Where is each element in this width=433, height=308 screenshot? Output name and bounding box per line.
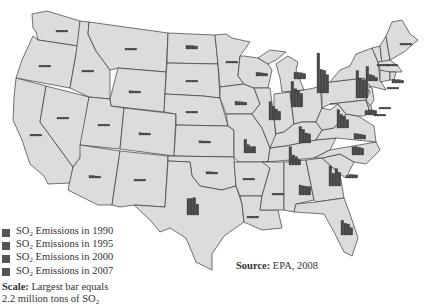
bar-2000	[406, 43, 409, 45]
bar-2000	[278, 193, 281, 195]
bar-1995	[209, 172, 212, 174]
bar-2007	[278, 111, 281, 120]
bar-1990	[329, 166, 332, 186]
bar-1990	[386, 64, 389, 66]
bar-2007	[196, 204, 199, 215]
bar-2007	[253, 147, 256, 153]
bar-1990	[187, 199, 190, 215]
bar-2000	[241, 102, 244, 105]
bar-1995	[357, 134, 360, 139]
scale-text-1: Largest bar equals	[29, 281, 108, 292]
bar-cluster-wa	[56, 30, 68, 32]
bar-1995	[349, 174, 352, 178]
bar-2007	[409, 43, 412, 45]
bar-2000	[63, 117, 66, 119]
bar-2000	[250, 147, 253, 153]
bar-cluster-ma	[392, 79, 404, 83]
bar-1990	[289, 147, 292, 165]
bar-2007	[298, 160, 301, 165]
bar-2007	[65, 30, 68, 32]
bar-cluster-co	[139, 133, 151, 135]
bar-2000	[192, 46, 195, 49]
bar-2000	[352, 175, 355, 178]
bar-cluster-mi	[294, 72, 306, 79]
bar-2000	[193, 198, 196, 215]
bar-2007	[244, 102, 247, 105]
bar-2007	[91, 70, 94, 72]
bar-1995	[355, 147, 358, 155]
bar-1990	[346, 175, 349, 178]
bar-1990	[129, 91, 132, 93]
bar-2000	[249, 178, 252, 180]
source-label: Source:	[236, 260, 270, 271]
bar-1990	[206, 172, 209, 174]
bar-2000	[145, 133, 148, 135]
bar-cluster-me	[400, 43, 412, 45]
bar-2000	[192, 111, 195, 113]
bar-cluster-mt	[125, 48, 137, 50]
bar-2000	[392, 64, 395, 66]
bar-1995	[292, 155, 295, 165]
bar-2000	[380, 114, 383, 116]
bar-1990	[139, 133, 142, 135]
bar-2007	[195, 80, 198, 82]
bar-2000	[212, 172, 215, 174]
bar-2000	[385, 107, 388, 109]
bar-1990	[291, 82, 294, 107]
legend-swatch	[2, 242, 10, 250]
bar-2007	[143, 179, 146, 181]
bar-2007	[195, 46, 198, 49]
bar-1990	[56, 30, 59, 32]
bar-2000	[295, 157, 298, 165]
bar-2007	[107, 124, 110, 126]
bar-2000	[398, 80, 401, 83]
bar-2000	[372, 76, 375, 81]
bar-1990	[235, 101, 238, 105]
bar-1995	[202, 141, 205, 143]
bar-1995	[189, 46, 192, 49]
bar-1995	[369, 75, 372, 81]
bar-cluster-id	[82, 70, 94, 72]
state-co	[120, 108, 176, 156]
bar-1995	[344, 223, 347, 235]
state-nm	[112, 151, 168, 207]
bar-2000	[36, 134, 39, 136]
bar-cluster-nv	[57, 117, 69, 119]
bar-1990	[392, 79, 395, 83]
bar-2007	[375, 77, 378, 81]
bar-1990	[341, 220, 344, 235]
bar-1995	[259, 73, 262, 76]
bar-2007	[383, 114, 386, 116]
bar-1990	[379, 107, 382, 109]
state-wy	[110, 68, 166, 112]
bar-2000	[371, 110, 374, 115]
bar-cluster-ok	[206, 172, 218, 174]
bar-2007	[350, 228, 353, 235]
bar-cluster-nm	[134, 179, 146, 181]
bar-2007	[374, 110, 377, 115]
bar-2000	[104, 124, 107, 126]
bar-2000	[347, 224, 350, 235]
bar-1995	[382, 107, 385, 109]
bar-2007	[252, 178, 255, 180]
bar-2000	[362, 80, 365, 98]
bar-1990	[366, 66, 369, 81]
state-me	[386, 20, 418, 60]
bar-1990	[269, 102, 272, 120]
bar-1995	[42, 65, 45, 67]
bar-1995	[320, 69, 323, 93]
bar-2007	[148, 133, 151, 135]
bar-1995	[132, 91, 135, 93]
legend-swatch	[2, 229, 10, 237]
bar-2000	[305, 186, 308, 195]
bar-2007	[396, 87, 399, 89]
state-ct	[380, 70, 390, 82]
bar-1990	[39, 65, 42, 67]
bar-cluster-ks	[199, 141, 211, 143]
bar-1995	[128, 48, 131, 50]
bar-2000	[192, 80, 195, 82]
bar-2000	[360, 134, 363, 139]
bar-2007	[338, 172, 341, 186]
bar-2007	[363, 135, 366, 139]
bar-1995	[189, 111, 192, 113]
